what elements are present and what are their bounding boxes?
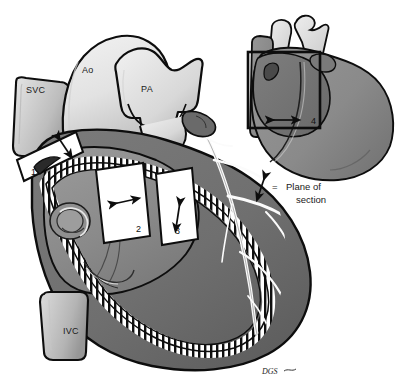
section-box-1-number: 1 — [31, 167, 36, 177]
aorta-label: Ao — [82, 65, 94, 75]
ivc-label: IVC — [63, 326, 79, 336]
legend-line-1: Plane of — [286, 181, 321, 192]
artist-signature-text: DGS — [261, 367, 278, 376]
section-box-2-number: 2 — [136, 224, 141, 234]
inset-heart-body — [252, 48, 394, 181]
figure-root: SVC Ao PA — [0, 0, 404, 389]
coronary-sinus-ostium — [50, 203, 90, 239]
section-box-4-number: 4 — [311, 116, 316, 126]
legend-equals: = — [272, 181, 278, 192]
section-box-3[interactable]: 3 — [156, 168, 198, 245]
svc-label: SVC — [26, 85, 46, 95]
legend-line-2: section — [296, 194, 326, 205]
cardiac-section-illustration: SVC Ao PA — [0, 0, 404, 389]
section-box-3-number: 3 — [175, 226, 180, 236]
pulmonary-artery-label: PA — [141, 84, 153, 94]
whole-heart-inset: 4 — [248, 16, 393, 181]
atrial-appendage-notch — [182, 111, 215, 136]
section-box-2[interactable]: 2 — [96, 163, 150, 243]
artist-signature: DGS — [261, 367, 296, 376]
